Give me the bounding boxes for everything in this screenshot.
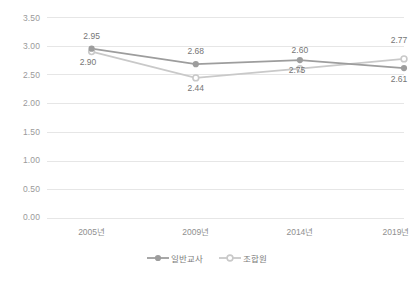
x-axis-tick-label: 2014년 xyxy=(286,225,313,237)
y-axis-tick-label: 2.50 xyxy=(0,70,40,80)
y-axis-tick-label: 3.00 xyxy=(0,41,40,51)
y-axis-tick-label: 3.50 xyxy=(0,13,40,23)
x-axis-tick-label: 2009년 xyxy=(182,225,209,237)
series-line-ilbangyosa xyxy=(92,49,404,68)
y-axis-tick-label: 2.00 xyxy=(0,98,40,108)
gridline xyxy=(47,218,404,219)
legend-marker-icon xyxy=(147,253,169,263)
chart-legend: 일반교사 조합원 xyxy=(0,252,414,264)
data-point-marker xyxy=(401,56,407,62)
legend-marker-icon xyxy=(219,253,241,263)
y-axis-tick-label: 1.00 xyxy=(0,155,40,165)
legend-label: 조합원 xyxy=(243,252,267,264)
legend-item-johabwon[interactable]: 조합원 xyxy=(219,252,267,264)
series-layer xyxy=(47,17,404,218)
x-axis-tick-label: 2019년 xyxy=(383,225,410,237)
x-axis-tick-label: 2005년 xyxy=(78,225,105,237)
line-chart: 3.50 3.00 2.50 2.00 1.50 1.00 0.50 0.00 xyxy=(0,0,414,282)
data-point-marker xyxy=(401,65,407,71)
legend-item-ilbangyosa[interactable]: 일반교사 xyxy=(147,252,203,264)
data-point-marker xyxy=(297,57,303,63)
y-axis-tick-label: 0.50 xyxy=(0,184,40,194)
legend-label: 일반교사 xyxy=(171,252,203,264)
y-axis-tick-label: 0.00 xyxy=(0,212,40,222)
data-point-marker xyxy=(297,66,303,72)
data-point-marker xyxy=(193,61,199,67)
data-point-marker xyxy=(193,75,199,81)
y-axis-tick-label: 1.50 xyxy=(0,127,40,137)
plot-area: 2.95 2.68 2.75 2.61 2.90 2.44 2.60 2.77 xyxy=(47,17,404,218)
data-point-marker xyxy=(89,46,95,52)
